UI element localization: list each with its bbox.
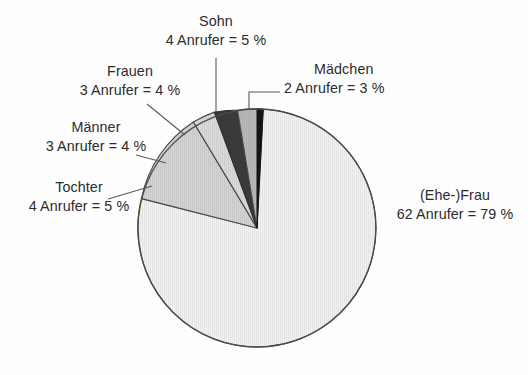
slice-label-maenner-value: 3 Anrufer = 4 % bbox=[26, 137, 166, 156]
slice-label-tochter: Tochter 4 Anrufer = 5 % bbox=[10, 178, 148, 215]
slice-label-frauen: Frauen 3 Anrufer = 4 % bbox=[57, 62, 203, 99]
slice-label-tochter-title: Tochter bbox=[10, 178, 148, 197]
slice-label-maedchen: Mädchen 2 Anrufer = 3 % bbox=[284, 60, 444, 97]
slice-label-maenner-title: Männer bbox=[26, 118, 166, 137]
pie-slices-group bbox=[138, 109, 376, 347]
slice-label-maenner: Männer 3 Anrufer = 4 % bbox=[26, 118, 166, 155]
slice-label-ehe-frau-value: 62 Anrufer = 79 % bbox=[382, 205, 528, 224]
slice-label-sohn: Sohn 4 Anrufer = 5 % bbox=[155, 12, 277, 49]
slice-label-sohn-title: Sohn bbox=[155, 12, 277, 31]
slice-label-frauen-title: Frauen bbox=[57, 62, 203, 81]
slice-label-maedchen-title: Mädchen bbox=[314, 60, 444, 79]
slice-label-frauen-value: 3 Anrufer = 4 % bbox=[57, 81, 203, 100]
slice-label-tochter-value: 4 Anrufer = 5 % bbox=[10, 197, 148, 216]
slice-label-ehe-frau: (Ehe-)Frau 62 Anrufer = 79 % bbox=[382, 186, 528, 223]
leader-line-maedchen bbox=[249, 92, 280, 110]
slice-label-maedchen-value: 2 Anrufer = 3 % bbox=[284, 79, 444, 98]
slice-label-ehe-frau-title: (Ehe-)Frau bbox=[382, 186, 528, 205]
pie-chart: Sohn 4 Anrufer = 5 % Mädchen 2 Anrufer =… bbox=[0, 0, 528, 375]
slice-label-sohn-value: 4 Anrufer = 5 % bbox=[155, 31, 277, 50]
